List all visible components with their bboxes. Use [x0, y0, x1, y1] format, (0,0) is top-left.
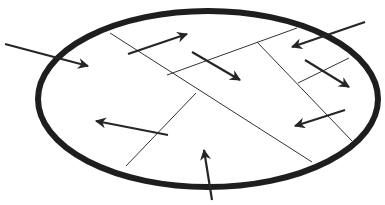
arrow-icon: [305, 60, 349, 87]
plate-diagram: [0, 0, 385, 205]
arrow-icon: [295, 110, 345, 126]
plate-outline: [38, 11, 378, 187]
arrow-icon: [204, 150, 212, 200]
arrow-icon: [192, 52, 240, 80]
diagram-canvas: [0, 0, 385, 205]
boundary-line: [110, 33, 312, 162]
boundary-line: [257, 42, 352, 141]
motion-arrows: [5, 22, 365, 200]
arrow-icon: [96, 121, 168, 135]
arrow-icon: [128, 34, 187, 54]
